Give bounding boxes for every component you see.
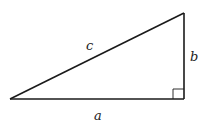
right-angle-marker: [173, 89, 184, 99]
label-b: b: [190, 49, 198, 64]
label-c: c: [86, 38, 94, 53]
right-triangle-figure: c b a: [0, 0, 208, 125]
label-a: a: [94, 108, 102, 123]
diagram-canvas: c b a: [0, 0, 208, 125]
hypotenuse-c: [10, 13, 184, 99]
